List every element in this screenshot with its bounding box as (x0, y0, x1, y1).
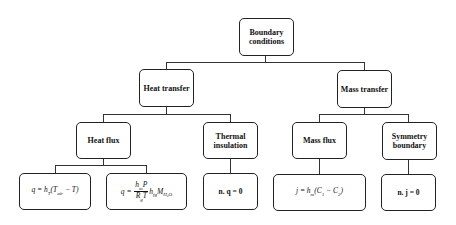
connector (230, 159, 231, 173)
connector (230, 114, 231, 122)
node-label: conditions (249, 37, 284, 46)
node-label: insulation (214, 141, 248, 150)
formula-text: (C (314, 186, 322, 195)
connector (103, 114, 231, 115)
formula-text: n. q = 0 (219, 187, 243, 196)
formula-text: P (143, 180, 148, 189)
formula-subscript: H₂O (163, 192, 172, 197)
formula-text: n. j = 0 (397, 188, 419, 197)
node-label: Mass flux (303, 136, 336, 145)
formula-symmetry: n. j = 0 (381, 174, 436, 211)
node-label: Boundary (249, 28, 283, 37)
connector (55, 165, 56, 173)
formula-convective-heat-flux: q = hT(Tair − T) (19, 173, 91, 210)
connector (364, 62, 365, 70)
connector (408, 114, 409, 122)
node-label: Mass transfer (341, 85, 388, 94)
formula-evaporative-heat-flux: q = hmP RgT hfgMH₂O (106, 173, 187, 210)
formula-text: − C (324, 186, 338, 195)
formula-text: − T) (63, 185, 78, 194)
connector (146, 165, 147, 173)
formula-text: q = h (31, 185, 47, 194)
connector (55, 165, 147, 166)
connector (319, 114, 409, 115)
node-label: boundary (393, 141, 426, 150)
formula-thermal-insulation: n. q = 0 (203, 173, 258, 210)
node-label: Symmetry (392, 132, 428, 141)
node-symmetry-boundary: Symmetryboundary (382, 122, 437, 160)
connector (103, 114, 104, 122)
connector (319, 114, 320, 122)
node-mass-transfer: Mass transfer (337, 70, 392, 108)
formula-text: T (143, 191, 147, 200)
connector (319, 159, 320, 174)
formula-text: q = (121, 186, 132, 195)
formula-mass-flux: j = hm(C1 − C2) (273, 174, 366, 211)
formula-text: ) (341, 186, 344, 195)
connector (166, 62, 365, 63)
formula-text: j = h (296, 186, 311, 195)
node-boundary-conditions: Boundaryconditions (239, 18, 294, 56)
node-mass-flux: Mass flux (292, 122, 347, 159)
node-label: Heat transfer (144, 84, 190, 93)
connector (408, 160, 409, 174)
fraction: hmP RgT (134, 181, 148, 203)
connector (166, 62, 167, 69)
node-heat-flux: Heat flux (76, 122, 131, 159)
node-label: Thermal (216, 132, 246, 141)
node-heat-transfer: Heat transfer (139, 69, 194, 107)
node-thermal-insulation: Thermalinsulation (203, 122, 258, 159)
node-label: Heat flux (88, 136, 120, 145)
